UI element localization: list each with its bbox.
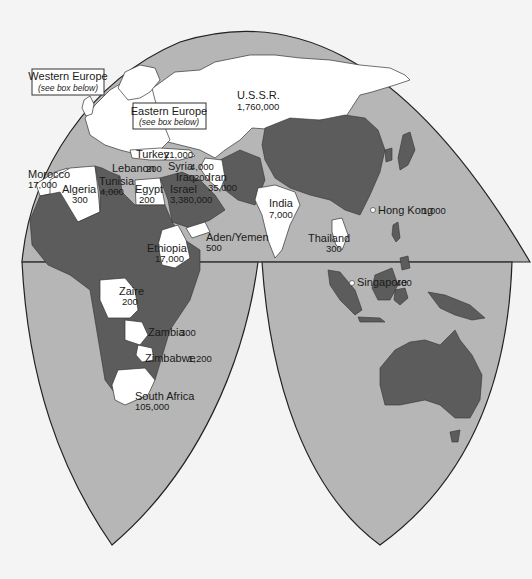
label-thailand-value: 300 <box>326 243 342 254</box>
label-ethiopia-value: 17,000 <box>155 253 184 264</box>
label-lebanon: Lebanon 200 <box>112 162 162 174</box>
region-uk <box>82 96 94 116</box>
label-zaire-value: 200 <box>122 296 138 307</box>
callout-western-europe-title: Western Europe <box>28 70 107 82</box>
callout-western-europe-note: (see box below) <box>38 83 98 93</box>
label-india-value: 7,000 <box>269 209 293 220</box>
label-iraq-name: Iraq <box>176 171 195 183</box>
label-zimbabwe-value: 1,200 <box>188 353 212 364</box>
label-algeria-value: 300 <box>72 194 88 205</box>
label-egypt-value: 200 <box>139 194 155 205</box>
label-singapore: Singapore 400 <box>357 276 412 288</box>
label-israel-value: 3,380,000 <box>170 194 212 205</box>
label-zambia-value: 300 <box>180 327 196 338</box>
label-turkey-value: 21,000 <box>164 149 193 160</box>
label-zimbabwe: Zimbabwe 1,200 <box>145 352 212 364</box>
callout-western-europe: Western Europe (see box below) <box>28 69 107 95</box>
label-india: India 7,000 <box>269 197 294 220</box>
label-ussr-name: U.S.S.R. <box>237 89 280 101</box>
callout-eastern-europe-note: (see box below) <box>139 117 199 127</box>
label-iran-value: 35,000 <box>208 182 237 193</box>
label-ussr-value: 1,760,000 <box>237 101 279 112</box>
region-korea <box>385 148 392 162</box>
world-map: Western Europe (see box below) Eastern E… <box>0 0 532 579</box>
label-ussr: U.S.S.R. 1,760,000 <box>237 89 280 112</box>
label-iraq: Iraq 200 <box>176 171 210 183</box>
callout-eastern-europe-title: Eastern Europe <box>131 105 207 117</box>
label-morocco-value: 17,000 <box>28 179 57 190</box>
label-zambia: Zambia 300 <box>148 326 196 338</box>
hong-kong-marker <box>371 208 376 213</box>
label-south-africa-value: 105,000 <box>135 401 169 412</box>
label-singapore-value: 400 <box>396 277 412 288</box>
label-aden-yemen-value: 500 <box>206 242 222 253</box>
label-turkey: Turkey 21,000 <box>136 148 193 160</box>
singapore-marker <box>350 281 355 286</box>
callout-eastern-europe: Eastern Europe (see box below) <box>131 103 207 129</box>
region-tasmania <box>450 430 460 442</box>
label-hong-kong-value: 1,000 <box>422 205 446 216</box>
label-hong-kong: Hong Kong 1,000 <box>378 204 446 216</box>
label-lebanon-value: 200 <box>146 163 162 174</box>
label-india-name: India <box>269 197 294 209</box>
label-tunisia-value: 4,000 <box>100 186 124 197</box>
